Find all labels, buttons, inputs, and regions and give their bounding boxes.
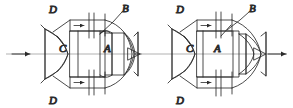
label-passage-c-left: C	[59, 42, 67, 54]
label-duct-top-left: D	[48, 3, 57, 15]
technical-drawing-sheet: D D B C A	[0, 0, 293, 108]
label-component-b-left: B	[122, 2, 129, 14]
label-duct-bottom-right: D	[175, 94, 184, 106]
label-body-a-left: A	[103, 42, 111, 54]
drawing-canvas: D D B C A	[0, 0, 293, 108]
label-duct-bottom-left: D	[48, 94, 57, 106]
label-component-b-right: B	[249, 2, 256, 14]
label-passage-c-right: C	[186, 42, 194, 54]
label-duct-top-right: D	[175, 3, 184, 15]
label-body-a-right: A	[213, 42, 221, 54]
